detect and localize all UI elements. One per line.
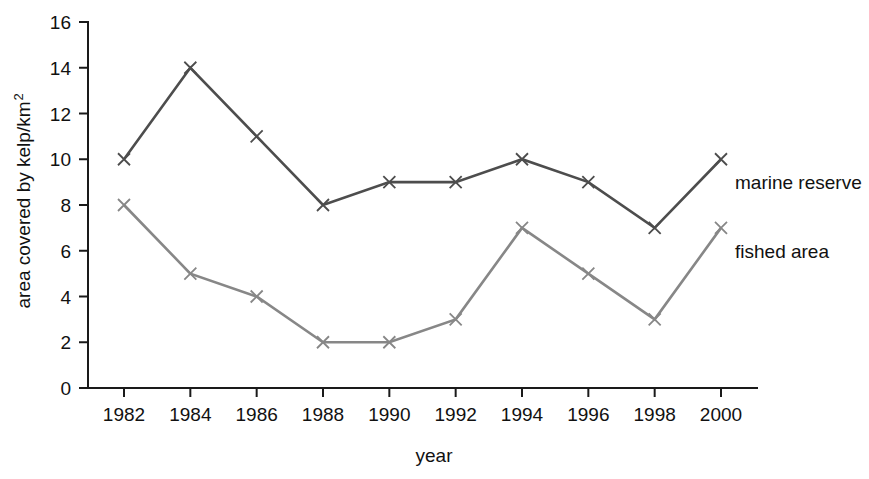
y-axis-tick-label: 12	[50, 104, 71, 125]
x-axis-tick-label: 1986	[236, 404, 278, 425]
y-axis-tick-label: 6	[60, 241, 71, 262]
series-fished-area	[118, 199, 727, 348]
series-line	[124, 68, 721, 228]
data-point-marker	[118, 199, 130, 211]
y-axis-tick-label: 16	[50, 12, 71, 33]
data-point-marker	[582, 268, 594, 280]
x-axis-tick-label: 1998	[634, 404, 676, 425]
series-labels-group: marine reservefished area	[735, 172, 862, 262]
series-line	[124, 205, 721, 342]
axes-group	[88, 22, 757, 388]
data-series-group	[118, 62, 727, 349]
data-point-marker	[184, 62, 196, 74]
data-point-marker	[516, 222, 528, 234]
data-point-marker	[649, 222, 661, 234]
y-axis-title-superscript: 2	[11, 93, 26, 100]
y-axis-tick-label: 0	[60, 378, 71, 399]
data-point-marker	[184, 268, 196, 280]
x-axis-ticks: 1982198419861988199019921994199619982000	[103, 388, 742, 425]
y-axis-ticks: 0246810121416	[50, 12, 88, 399]
x-axis-tick-label: 1982	[103, 404, 145, 425]
x-axis-tick-label: 1992	[435, 404, 477, 425]
data-point-marker	[649, 313, 661, 325]
x-axis-tick-label: 1994	[501, 404, 544, 425]
data-point-marker	[118, 153, 130, 165]
y-axis-tick-label: 10	[50, 149, 71, 170]
data-point-marker	[715, 222, 727, 234]
x-axis-title: year	[416, 445, 454, 466]
data-point-marker	[251, 130, 263, 142]
y-axis-title: area covered by kelp/km	[13, 102, 34, 309]
series-inline-label: fished area	[735, 241, 829, 262]
x-axis-tick-label: 1990	[368, 404, 410, 425]
y-axis-tick-label: 8	[60, 195, 71, 216]
data-point-marker	[251, 291, 263, 303]
data-point-marker	[715, 153, 727, 165]
series-marine-reserve	[118, 62, 727, 234]
series-inline-label: marine reserve	[735, 172, 862, 193]
data-point-marker	[450, 313, 462, 325]
line-chart: 0246810121416 19821984198619881990199219…	[0, 0, 869, 479]
y-axis-tick-label: 4	[60, 287, 71, 308]
y-axis-tick-label: 2	[60, 332, 71, 353]
data-point-marker	[516, 153, 528, 165]
data-point-marker	[582, 176, 594, 188]
x-axis-tick-label: 2000	[700, 404, 742, 425]
y-axis-tick-label: 14	[50, 58, 72, 79]
x-axis-tick-label: 1996	[567, 404, 609, 425]
data-point-marker	[317, 199, 329, 211]
x-axis-tick-label: 1988	[302, 404, 344, 425]
y-axis-title-group: area covered by kelp/km 2	[11, 93, 34, 308]
chart-container: 0246810121416 19821984198619881990199219…	[0, 0, 869, 479]
x-axis-tick-label: 1984	[169, 404, 212, 425]
